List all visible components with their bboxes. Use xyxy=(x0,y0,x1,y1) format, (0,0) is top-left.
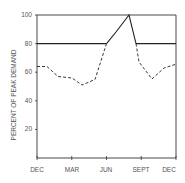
x-tick-jun: JUN xyxy=(100,166,113,173)
y-tick-60: 60 xyxy=(25,68,33,75)
x-tick-dec-end: DEC xyxy=(162,166,176,173)
y-tick-40: 40 xyxy=(25,97,33,104)
peak-demand-solid-line xyxy=(107,15,137,44)
y-axis-title: PERCENT OF PEAK DEMAND xyxy=(10,49,17,140)
x-tick-sept: SEPT xyxy=(133,166,150,173)
x-tick-labels: DEC MAR JUN SEPT DEC xyxy=(30,166,176,173)
y-tick-100: 100 xyxy=(21,11,32,18)
x-tick-mar: MAR xyxy=(65,166,80,173)
demand-dashed-line-before-peak xyxy=(37,44,107,85)
peak-demand-chart: 100 80 60 40 20 DEC MAR JUN SEPT DEC PER… xyxy=(0,0,185,183)
demand-dashed-line-after-peak xyxy=(136,44,175,79)
y-tick-20: 20 xyxy=(25,125,33,132)
y-tick-labels: 100 80 60 40 20 xyxy=(21,11,32,132)
y-tick-80: 80 xyxy=(25,40,33,47)
plot-frame xyxy=(37,15,176,158)
x-tick-dec-start: DEC xyxy=(30,166,44,173)
